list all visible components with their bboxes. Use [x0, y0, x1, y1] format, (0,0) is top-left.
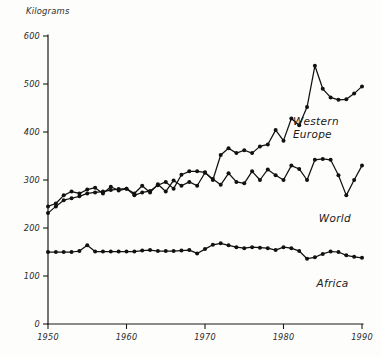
marker-western-europe-1972: [219, 153, 223, 157]
marker-africa-1972: [219, 241, 223, 245]
marker-western-europe-1987: [336, 98, 340, 102]
marker-western-europe-1965: [164, 180, 168, 184]
marker-western-europe-1974: [234, 151, 238, 155]
marker-western-europe-1973: [227, 146, 231, 150]
series-labels: WesternEuropeWorldAfrica: [293, 115, 351, 289]
marker-africa-1967: [179, 249, 183, 253]
line-chart-svg: Kilograms 0100200300400500600 1950196019…: [0, 0, 381, 357]
x-axis-ticks: 19501960197019801990: [37, 324, 373, 342]
marker-world-1961: [132, 191, 136, 195]
marker-africa-1970: [203, 247, 207, 251]
marker-western-europe-1980: [282, 139, 286, 143]
marker-africa-1988: [344, 253, 348, 257]
marker-world-1983: [305, 178, 309, 182]
y-tick-label-200: 200: [24, 223, 40, 233]
marker-africa-1961: [132, 250, 136, 254]
marker-world-1951: [54, 202, 58, 206]
marker-africa-1964: [156, 249, 160, 253]
series-line-world: [48, 159, 362, 207]
x-tick-label-1980: 1980: [273, 332, 295, 342]
marker-africa-1990: [360, 256, 364, 260]
marker-western-europe-1950: [46, 211, 50, 215]
marker-world-1972: [219, 183, 223, 187]
y-axis-ticks: 0100200300400500600: [24, 31, 48, 329]
marker-africa-1978: [266, 246, 270, 250]
marker-western-europe-1990: [360, 84, 364, 88]
marker-western-europe-1952: [62, 198, 66, 202]
marker-world-1987: [336, 173, 340, 177]
marker-western-europe-1976: [250, 151, 254, 155]
marker-western-europe-1955: [85, 191, 89, 195]
y-tick-label-300: 300: [24, 175, 40, 185]
series-label-africa: Africa: [315, 277, 348, 289]
y-tick-label-0: 0: [35, 319, 40, 329]
marker-world-1963: [148, 190, 152, 194]
marker-world-1956: [93, 186, 97, 190]
marker-western-europe-1986: [329, 95, 333, 99]
marker-western-europe-1988: [344, 97, 348, 101]
marker-world-1982: [297, 167, 301, 171]
marker-world-1955: [85, 188, 89, 192]
marker-world-1967: [179, 184, 183, 188]
marker-western-europe-1985: [321, 87, 325, 91]
marker-africa-1973: [227, 243, 231, 247]
marker-africa-1951: [54, 250, 58, 254]
marker-world-1954: [77, 191, 81, 195]
marker-africa-1969: [195, 251, 199, 255]
marker-western-europe-1968: [187, 169, 191, 173]
marker-world-1974: [234, 180, 238, 184]
marker-western-europe-1983: [305, 105, 309, 109]
marker-world-1986: [329, 158, 333, 162]
marker-world-1973: [227, 171, 231, 175]
x-tick-label-1970: 1970: [194, 332, 216, 342]
y-axis-title: Kilograms: [26, 6, 70, 16]
marker-world-1975: [242, 181, 246, 185]
marker-africa-1966: [172, 249, 176, 253]
marker-western-europe-1956: [93, 190, 97, 194]
marker-world-1978: [266, 167, 270, 171]
marker-africa-1960: [125, 250, 129, 254]
marker-world-1958: [109, 185, 113, 189]
marker-western-europe-1953: [70, 196, 74, 200]
y-tick-label-600: 600: [24, 31, 40, 41]
x-tick-label-1990: 1990: [351, 332, 373, 342]
marker-world-1953: [70, 190, 74, 194]
marker-world-1960: [125, 187, 129, 191]
marker-africa-1952: [62, 250, 66, 254]
marker-world-1981: [289, 164, 293, 168]
marker-africa-1989: [352, 255, 356, 259]
series-paths: [48, 66, 362, 259]
x-tick-label-1950: 1950: [37, 332, 59, 342]
marker-western-europe-1978: [266, 142, 270, 146]
series-label-world: World: [319, 212, 351, 224]
marker-africa-1971: [211, 243, 215, 247]
marker-africa-1974: [234, 245, 238, 249]
marker-world-1971: [211, 177, 215, 181]
series-markers: [46, 64, 364, 261]
marker-africa-1975: [242, 246, 246, 250]
marker-africa-1965: [164, 249, 168, 253]
marker-world-1957: [101, 191, 105, 195]
marker-world-1984: [313, 158, 317, 162]
marker-western-europe-1969: [195, 169, 199, 173]
marker-africa-1977: [258, 246, 262, 250]
marker-africa-1983: [305, 257, 309, 261]
marker-africa-1957: [101, 250, 105, 254]
marker-africa-1979: [274, 248, 278, 252]
marker-world-1985: [321, 157, 325, 161]
y-tick-label-100: 100: [24, 271, 40, 281]
marker-world-1976: [250, 169, 254, 173]
marker-western-europe-1989: [352, 92, 356, 96]
marker-africa-1958: [109, 250, 113, 254]
marker-western-europe-1962: [140, 190, 144, 194]
marker-world-1952: [62, 193, 66, 197]
marker-africa-1962: [140, 249, 144, 253]
marker-africa-1982: [297, 249, 301, 253]
marker-world-1988: [344, 193, 348, 197]
marker-world-1959: [117, 189, 121, 193]
marker-africa-1984: [313, 255, 317, 259]
marker-world-1962: [140, 184, 144, 188]
marker-world-1979: [274, 173, 278, 177]
y-tick-label-400: 400: [24, 127, 40, 137]
marker-world-1968: [187, 180, 191, 184]
